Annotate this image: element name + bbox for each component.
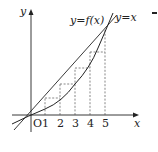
curve-label: y=f(x) (69, 14, 104, 27)
y-axis-arrow-icon (29, 9, 34, 15)
x-tick-1: 1 (42, 117, 49, 130)
x-tick-5: 5 (102, 117, 109, 130)
x-tick-4: 4 (87, 117, 94, 130)
line-y-equals-x (14, 16, 116, 130)
curve-y-equals-f-x (12, 13, 113, 124)
x-axis-label: x (134, 117, 141, 130)
y-axis-label: y (19, 5, 27, 18)
cobweb-dashed-lines (45, 29, 105, 115)
decorative-mark (152, 12, 157, 14)
origin-label: O (33, 117, 42, 130)
x-tick-3: 3 (72, 117, 79, 130)
line-label: y=x (114, 11, 137, 24)
x-tick-2: 2 (57, 117, 64, 130)
function-iteration-diagram: y x O 1 2 3 4 5 y=f(x) y=x (0, 0, 158, 152)
